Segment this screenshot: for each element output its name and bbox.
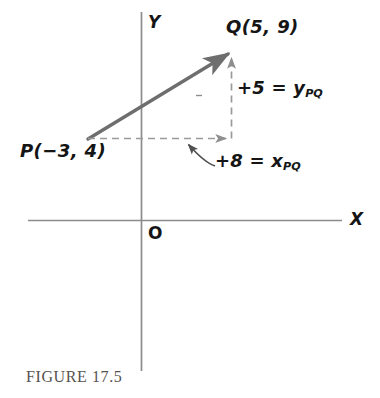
x-component-annotation-text: +8 = x [215, 150, 283, 171]
y-component-annotation-text: +5 = y [237, 77, 305, 98]
point-label-p: P(−3, 4) [20, 142, 106, 160]
figure-container: Y X O Q(5, 9) P(−3, 4) +5 = yPQ +8 = xPQ… [0, 0, 380, 398]
y-axis-label: Y [148, 14, 160, 31]
coordinate-diagram [0, 0, 380, 398]
figure-caption: FIGURE 17.5 [26, 368, 122, 386]
x-component-annotation: +8 = xPQ [215, 152, 301, 172]
y-component-annotation: +5 = yPQ [237, 79, 323, 99]
y-component-subscript: PQ [305, 87, 323, 100]
vector-pq [88, 54, 228, 139]
point-label-q: Q(5, 9) [226, 18, 299, 36]
x-axis-label: X [350, 211, 363, 228]
x-component-subscript: PQ [283, 160, 301, 173]
x-component-leader-arrow [189, 145, 216, 167]
origin-label: O [148, 225, 162, 242]
